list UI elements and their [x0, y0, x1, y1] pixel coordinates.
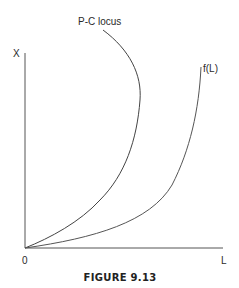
pc-locus-label: P-C locus — [78, 16, 121, 27]
figure-caption: FIGURE 9.13 — [84, 272, 157, 283]
x-axis-label: L — [221, 255, 227, 266]
f-of-l-label: f(L) — [203, 63, 218, 74]
y-axis-label: X — [13, 48, 20, 59]
f-of-l-curve — [25, 67, 201, 248]
figure-diagram: X P-C locus f(L) 0 L FIGURE 9.13 — [0, 0, 239, 288]
origin-label: 0 — [22, 255, 28, 266]
pc-locus-curve — [25, 30, 140, 248]
